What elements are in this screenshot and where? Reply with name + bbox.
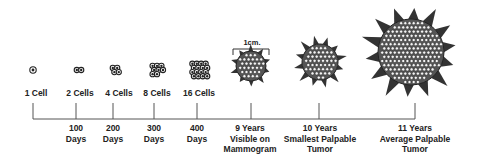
stage-label-8-cells: 8 Cells — [143, 88, 170, 99]
cell-cluster-icon — [74, 67, 84, 72]
time-label-200-days: 200 Days — [103, 123, 123, 144]
timeline-axis — [33, 103, 415, 119]
time-label-400-days: 400 Days — [187, 123, 207, 144]
stage-label-4-cells: 4 Cells — [105, 88, 132, 99]
time-label-9-years: 9 Years Visible on Mammogram — [224, 123, 277, 155]
stage-label-2-cells: 2 Cells — [66, 88, 93, 99]
stage-label-16-cells: 16 Cells — [183, 88, 215, 99]
time-label-300-days: 300 Days — [144, 123, 164, 144]
time-label-11-years: 11 Years Average Palpable Tumor — [380, 123, 451, 155]
cell-cluster-icon — [150, 63, 166, 77]
cell-cluster-icon — [30, 67, 36, 73]
cell-clusters — [30, 61, 210, 79]
cell-cluster-icon — [110, 65, 121, 74]
tumors — [231, 8, 456, 97]
time-label-10-years: 10 Years Smallest Palpable Tumor — [284, 123, 356, 155]
scale-bar-label: 1cm. — [243, 38, 260, 49]
tumor-icon — [231, 44, 270, 86]
stage-label-1-cell: 1 Cell — [25, 88, 48, 99]
tumor-growth-diagram: 1cm. 1 Cell 2 Cells 4 Cells 8 Cells 16 C… — [0, 0, 479, 165]
tumor-icon — [294, 36, 347, 88]
tumor-icon — [362, 8, 456, 97]
time-label-100-days: 100 Days — [66, 123, 86, 144]
cell-cluster-icon — [190, 61, 210, 79]
